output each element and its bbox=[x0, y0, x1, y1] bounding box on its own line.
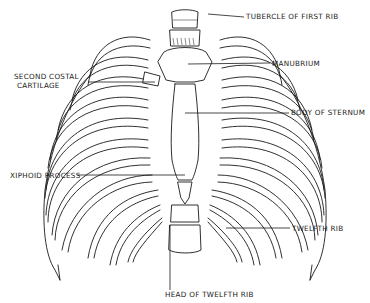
label-head-of-twelfth-rib: HEAD OF TWELFTH RIB bbox=[165, 290, 254, 299]
label-tubercle-of-first-rib: TUBERCLE OF FIRST RIB bbox=[246, 12, 339, 21]
first-thoracic-vertebra bbox=[170, 10, 200, 46]
body-of-sternum bbox=[171, 84, 199, 180]
rib-cage-illustration bbox=[0, 0, 370, 303]
thoracic-cage-diagram: TUBERCLE OF FIRST RIB MANUBRIUM SECOND C… bbox=[0, 0, 370, 303]
label-twelfth-rib: TWELFTH RIB bbox=[292, 224, 343, 233]
label-second-costal-cartilage-line2: CARTILAGE bbox=[17, 81, 60, 90]
label-second-costal-cartilage-line1: SECOND COSTAL bbox=[14, 72, 79, 81]
right-ribs bbox=[208, 37, 326, 280]
second-costal-cartilage bbox=[143, 72, 160, 86]
manubrium bbox=[158, 48, 212, 83]
label-body-of-sternum: BODY OF STERNUM bbox=[291, 108, 365, 117]
label-manubrium: MANUBRIUM bbox=[272, 59, 320, 68]
label-xiphoid-process: XIPHOID PROCESS bbox=[10, 171, 81, 180]
lower-vertebrae bbox=[169, 205, 201, 253]
xiphoid-process bbox=[178, 182, 192, 204]
